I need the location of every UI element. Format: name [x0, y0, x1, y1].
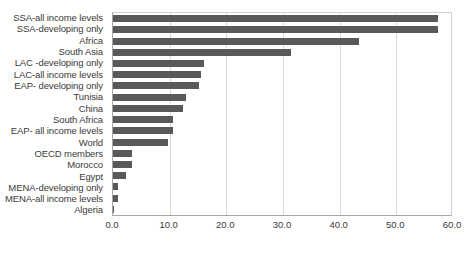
- bar: [113, 183, 118, 190]
- x-tick-label: 20.0: [216, 219, 235, 230]
- bar-row: [113, 92, 451, 103]
- category-label: Tunisia: [0, 91, 107, 102]
- x-tick-label: 10.0: [159, 219, 178, 230]
- category-label: LAC -developing only: [0, 57, 107, 68]
- bar: [113, 82, 199, 89]
- x-axis-tick-labels: 0.010.020.030.040.050.060.0: [112, 219, 452, 239]
- bar: [113, 195, 118, 202]
- bar-row: [113, 35, 451, 46]
- category-label: Africa: [0, 35, 107, 46]
- bar-row: [113, 136, 451, 147]
- x-tick-label: 40.0: [329, 219, 348, 230]
- category-label: EAP- all income levels: [0, 125, 107, 136]
- bar: [113, 38, 359, 45]
- bar-row: [113, 24, 451, 35]
- category-label: SSA-developing only: [0, 23, 107, 34]
- bar: [113, 26, 438, 33]
- bar-row: [113, 58, 451, 69]
- x-tick-label: 0.0: [105, 219, 118, 230]
- bar-row: [113, 148, 451, 159]
- bar: [113, 127, 173, 134]
- bar: [113, 60, 204, 67]
- bar: [113, 150, 132, 157]
- bar-row: [113, 193, 451, 204]
- category-label: World: [0, 137, 107, 148]
- category-label: Egypt: [0, 171, 107, 182]
- bar-row: [113, 69, 451, 80]
- bar: [113, 15, 438, 22]
- x-tick-label: 30.0: [273, 219, 292, 230]
- category-axis-labels: SSA-all income levelsSSA-developing only…: [0, 12, 107, 216]
- category-label: OECD members: [0, 148, 107, 159]
- category-label: EAP- developing only: [0, 80, 107, 91]
- bar: [113, 94, 186, 101]
- bar-row: [113, 47, 451, 58]
- category-label: LAC-all income levels: [0, 69, 107, 80]
- bar: [113, 172, 126, 179]
- bar-series: [113, 13, 451, 215]
- category-label: Algeria: [0, 205, 107, 216]
- category-label: MENA-developing only: [0, 182, 107, 193]
- bar: [113, 161, 132, 168]
- bar: [113, 71, 201, 78]
- bar-row: [113, 181, 451, 192]
- category-label: South Asia: [0, 46, 107, 57]
- bar-row: [113, 170, 451, 181]
- x-tick-label: 60.0: [443, 219, 462, 230]
- category-label: MENA-all income levels: [0, 193, 107, 204]
- bar: [113, 116, 173, 123]
- category-label: SSA-all income levels: [0, 12, 107, 23]
- bar-row: [113, 103, 451, 114]
- bar-row: [113, 80, 451, 91]
- x-tick-label: 50.0: [386, 219, 405, 230]
- bar: [113, 105, 183, 112]
- bar-row: [113, 114, 451, 125]
- bar: [113, 206, 114, 213]
- category-label: Morocco: [0, 159, 107, 170]
- bar-row: [113, 204, 451, 215]
- bar-row: [113, 13, 451, 24]
- bar-chart: SSA-all income levelsSSA-developing only…: [0, 0, 472, 257]
- bar: [113, 49, 291, 56]
- plot-area: [112, 12, 452, 216]
- bar-row: [113, 159, 451, 170]
- category-label: South Africa: [0, 114, 107, 125]
- bar: [113, 139, 168, 146]
- bar-row: [113, 125, 451, 136]
- category-label: China: [0, 103, 107, 114]
